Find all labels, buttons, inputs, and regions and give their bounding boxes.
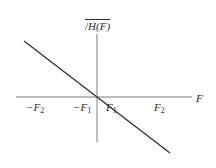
x-axis-label: F (196, 93, 203, 104)
tick-subscript: 1 (113, 106, 117, 115)
tick-label-neg-f1: −F1 (73, 102, 91, 115)
tick-label-f1: F1 (106, 102, 117, 115)
tick-subscript: 2 (161, 106, 165, 115)
tick-base: F (154, 101, 161, 113)
tick-label-neg-f2: −F2 (26, 102, 44, 115)
tick-label-f2: F2 (154, 102, 165, 115)
tick-subscript: 1 (87, 106, 91, 115)
y-axis-label: /H(F) (85, 21, 110, 32)
tick-base: F (106, 101, 113, 113)
tick-subscript: 2 (40, 106, 44, 115)
y-axis-label-text: H(F) (88, 20, 110, 32)
